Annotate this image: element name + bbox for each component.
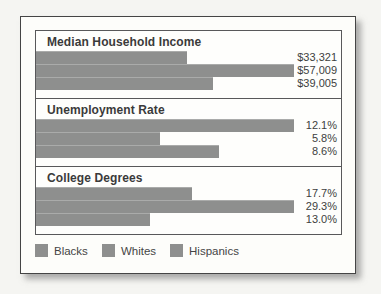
legend-item-blacks: Blacks — [35, 244, 88, 257]
value-label: $33,321 — [297, 51, 337, 64]
bar-row — [36, 187, 341, 200]
chart-section: College Degrees17.7%29.3%13.0% — [36, 166, 341, 234]
chart-card: Median Household Income$33,321$57,009$39… — [20, 16, 356, 274]
value-label: 5.8% — [306, 132, 337, 145]
value-label: $39,005 — [297, 77, 337, 90]
bar-row — [36, 64, 341, 77]
bar-hispanics — [36, 145, 219, 158]
bar-row — [36, 132, 341, 145]
bar-group: 17.7%29.3%13.0% — [36, 187, 341, 226]
value-label: $57,009 — [297, 64, 337, 77]
bar-row — [36, 119, 341, 132]
legend-label: Hispanics — [189, 245, 239, 257]
value-label: 8.6% — [306, 145, 337, 158]
bar-group: 12.1%5.8%8.6% — [36, 119, 341, 158]
bar-row — [36, 200, 341, 213]
bar-whites — [36, 132, 160, 145]
figure-background: Median Household Income$33,321$57,009$39… — [0, 0, 381, 294]
bar-whites — [36, 200, 294, 213]
section-title: Unemployment Rate — [36, 99, 341, 118]
bar-blacks — [36, 51, 187, 64]
legend-swatch-whites — [102, 244, 115, 257]
bar-group: $33,321$57,009$39,005 — [36, 51, 341, 90]
bar-hispanics — [36, 77, 213, 90]
legend-swatch-blacks — [35, 244, 48, 257]
value-labels: 12.1%5.8%8.6% — [306, 119, 337, 158]
legend-item-hispanics: Hispanics — [170, 244, 239, 257]
section-title: College Degrees — [36, 167, 341, 186]
legend-swatch-hispanics — [170, 244, 183, 257]
value-labels: 17.7%29.3%13.0% — [306, 187, 337, 226]
value-labels: $33,321$57,009$39,005 — [297, 51, 337, 90]
chart-section: Median Household Income$33,321$57,009$39… — [36, 31, 341, 98]
legend-label: Blacks — [54, 245, 88, 257]
bar-blacks — [36, 187, 192, 200]
bar-blacks — [36, 119, 294, 132]
chart-legend: BlacksWhitesHispanics — [35, 244, 253, 257]
value-label: 17.7% — [306, 187, 337, 200]
value-label: 29.3% — [306, 200, 337, 213]
value-label: 12.1% — [306, 119, 337, 132]
bar-row — [36, 213, 341, 226]
bar-whites — [36, 64, 294, 77]
bar-row — [36, 77, 341, 90]
bar-hispanics — [36, 213, 150, 226]
bar-row — [36, 145, 341, 158]
chart-panel: Median Household Income$33,321$57,009$39… — [35, 30, 342, 235]
bar-row — [36, 51, 341, 64]
section-title: Median Household Income — [36, 31, 341, 50]
legend-label: Whites — [121, 245, 156, 257]
legend-item-whites: Whites — [102, 244, 156, 257]
value-label: 13.0% — [306, 213, 337, 226]
chart-section: Unemployment Rate12.1%5.8%8.6% — [36, 98, 341, 166]
